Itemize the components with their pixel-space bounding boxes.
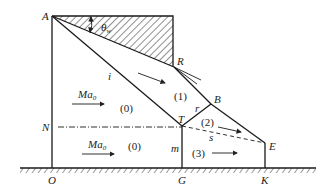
- label-slip-line: s: [209, 131, 213, 143]
- ground-hatch: [20, 168, 316, 173]
- point-R: R: [176, 55, 184, 67]
- region-0-lower: (0): [128, 140, 141, 153]
- region-1: (1): [174, 90, 187, 103]
- region-2: (2): [201, 116, 214, 129]
- region-0-upper: (0): [120, 102, 133, 115]
- point-K: K: [260, 174, 269, 186]
- point-N: N: [41, 121, 50, 133]
- shock-reflection-diagram: θw A R B T E N O G K i r s m (0) (0) (1)…: [0, 0, 328, 194]
- expansion-wave-1: [174, 67, 201, 80]
- flow-arrow-region1: [138, 73, 165, 83]
- point-O: O: [48, 174, 56, 186]
- point-A: A: [41, 10, 49, 22]
- point-B: B: [214, 93, 221, 105]
- mach-label-upper: Ma0: [77, 88, 97, 102]
- point-E: E: [268, 140, 276, 152]
- label-mach-stem: m: [171, 142, 179, 154]
- flow-arrow-region2: [218, 127, 241, 132]
- point-T: T: [178, 113, 185, 125]
- label-reflected-shock: r: [195, 102, 200, 114]
- point-G: G: [178, 174, 186, 186]
- label-incident-shock: i: [108, 70, 111, 82]
- mach-label-lower: Ma0: [87, 138, 107, 152]
- region-3: (3): [192, 147, 205, 160]
